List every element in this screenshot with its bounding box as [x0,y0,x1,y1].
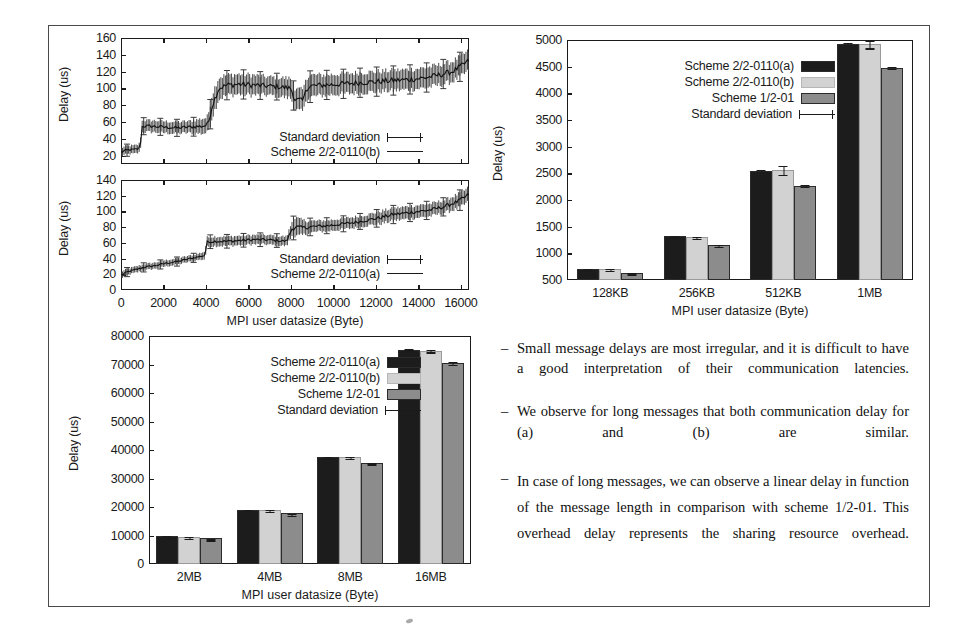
x-tick-label: 10000 [317,296,350,310]
error-bar-icon [387,255,423,264]
y-tick-label: 0 [64,557,144,571]
list-dash: – [501,401,517,462]
legend-row-series: Scheme 2/2-0110(b) [583,74,835,90]
error-bar [887,67,896,70]
error-bar [628,273,637,276]
legend-row-std: Standard deviation [243,252,423,267]
error-bar-cap-bottom [757,172,766,173]
error-bar [265,510,274,513]
x-tick-label: 14000 [402,296,435,310]
y-tick-label: 70000 [64,358,144,372]
y-tick-label: 80000 [64,329,144,343]
y-tick [149,536,154,537]
list-item-text: In case of long messages, we can observe… [517,468,909,572]
x-tick-label: 12000 [359,296,392,310]
y-tick [149,393,154,394]
y-tick-label: 0 [56,283,116,297]
legend-row-series: Scheme 1/2-01 [159,386,421,402]
y-axis-title: Delay (us) [57,201,71,256]
error-bar [368,463,377,466]
y-tick-label: 30000 [64,472,144,486]
error-bar-cap-bottom [628,275,637,276]
error-bar [207,539,216,542]
x-axis-title: MPI user datasize (Byte) [149,588,471,602]
error-bar-cap-bottom [801,187,810,188]
error-bar [692,237,701,240]
error-bar-cap-bottom [287,516,296,517]
error-bar-cap-top [779,166,788,167]
y-axis-title: Delay (us) [67,416,81,471]
error-bar-cap-top [843,43,852,44]
legend-row-std: Standard deviation [583,106,835,122]
top-spine [567,40,913,41]
x-tick-label: 8MB [338,570,363,584]
error-bar [243,510,252,513]
legend-label: Scheme 1/2-01 [298,387,380,401]
y-tick-label: 5000 [482,33,562,47]
legend-row-series: Scheme 2/2-0110(a) [583,58,835,74]
x-tick-label: 256KB [679,286,715,300]
y-tick-label: 500 [482,273,562,287]
y-tick-label: 140 [56,48,116,62]
y-tick [149,507,154,508]
chart-bar-mb: 0100002000030000400005000060000700008000… [63,326,483,604]
bar [664,236,686,280]
legend-row-std: Standard deviation [243,130,423,145]
y-tick [149,450,154,451]
error-bar-cap-bottom [163,538,172,539]
y-tick-label: 1000 [482,246,562,260]
y-tick-label: 10000 [64,529,144,543]
legend-label: Standard deviation [277,403,378,417]
y-tick-label: 60000 [64,386,144,400]
list-dash: – [501,468,517,572]
y-tick-label: 20000 [64,500,144,514]
y-axis [567,40,568,280]
error-bar-cap-bottom [368,465,377,466]
error-bar [779,166,788,176]
error-bar-cap-top [865,41,874,42]
bar [881,68,903,280]
legend-swatch [801,61,835,72]
error-bar-cap-bottom [207,540,216,541]
observations-list: –Small message delays are most irregular… [501,338,909,574]
bar [794,186,816,280]
error-bar [670,236,679,239]
legend-label: Standard deviation [691,107,792,121]
scan-artifact [406,618,414,624]
error-bar-cap-bottom [865,48,874,49]
legend-row-series: Scheme 1/2-01 [583,90,835,106]
error-bar-icon [387,133,423,142]
chart-legend: Standard deviationScheme 2/2-0110(a) [243,252,423,281]
error-bar-cap-bottom [887,69,896,70]
y-tick-label: 3500 [482,113,562,127]
list-item: –Small message delays are most irregular… [501,338,909,399]
right-spine [912,40,913,280]
error-bar-cap-bottom [843,45,852,46]
top-spine [149,336,471,337]
error-bar [163,536,172,539]
error-bar [324,457,333,460]
error-bar-cap-bottom [448,365,457,366]
bar [577,269,599,280]
y-tick [149,479,154,480]
error-bar [448,362,457,365]
chart-bar-kb: 5001000150020002500300035004000450050001… [487,30,927,322]
error-bar-cap-bottom [346,459,355,460]
legend-label: Scheme 2/2-0110(a) [271,267,380,281]
y-tick [567,253,572,254]
y-tick-label: 40 [56,132,116,146]
x-tick-label: 16MB [415,570,446,584]
legend-row-series: Scheme 2/2-0110(a) [243,267,423,282]
error-bar-cap-top [887,67,896,68]
error-bar [426,350,435,354]
error-bar-icon [385,406,421,415]
legend-row-series: Scheme 2/2-0110(b) [159,370,421,386]
figure-frame: 20406080100120140160Delay (us)Standard d… [48,25,930,607]
x-tick-label: 2MB [177,570,202,584]
x-tick-label: 6000 [235,296,262,310]
legend-swatch [801,77,835,88]
error-bar [584,269,593,272]
legend-swatch [387,357,421,368]
bar [859,44,881,280]
list-item-text: We observe for long messages that both c… [517,401,909,462]
